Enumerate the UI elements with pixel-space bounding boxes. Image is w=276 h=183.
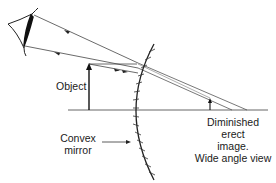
virtual-ray-2 [138,68,232,110]
image-label-line4: Wide angle view [188,152,276,164]
image-label-line2: erect [188,128,276,140]
ray-lower [25,46,138,68]
mirror-label-line1: Convex [60,132,96,144]
mirror-label-line2: mirror [60,144,96,156]
mirror-pointer-arrow-icon [126,140,131,144]
object-label: Object [56,80,86,92]
ray-incident [89,64,138,73]
image-label-line1: Diminished [188,116,276,128]
image-label-line3: image. [188,140,276,152]
virtual-ray-1 [138,63,247,110]
ray-upper [34,15,138,63]
mirror-label: Convex mirror [60,132,96,156]
eye-icon [8,8,38,56]
virtual-ray-3 [138,64,210,98]
image-label: Diminished erect image. Wide angle view [188,116,276,164]
object-arrow-icon [86,63,92,110]
